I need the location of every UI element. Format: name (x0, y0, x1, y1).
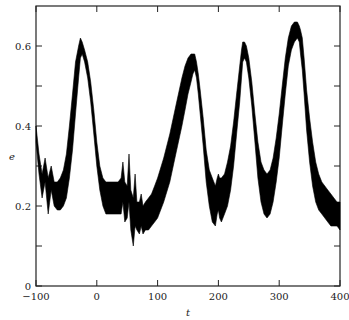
x-tick-label: −100 (22, 291, 49, 302)
y-tick-label: 0 (25, 281, 31, 292)
y-tick-label: 0.4 (15, 121, 31, 132)
y-tick-label: 0.2 (15, 201, 31, 212)
data-band (36, 22, 340, 246)
y-axis-label: e (9, 151, 15, 162)
x-axis-label: t (186, 307, 191, 318)
x-tick-label: 0 (94, 291, 100, 302)
x-tick-label: 400 (330, 291, 349, 302)
y-tick-label: 0.6 (15, 41, 31, 52)
x-tick-label: 100 (148, 291, 167, 302)
chart-svg: −100010020030040000.20.40.6 t e (0, 0, 349, 320)
x-tick-label: 300 (270, 291, 289, 302)
x-tick-label: 200 (209, 291, 228, 302)
